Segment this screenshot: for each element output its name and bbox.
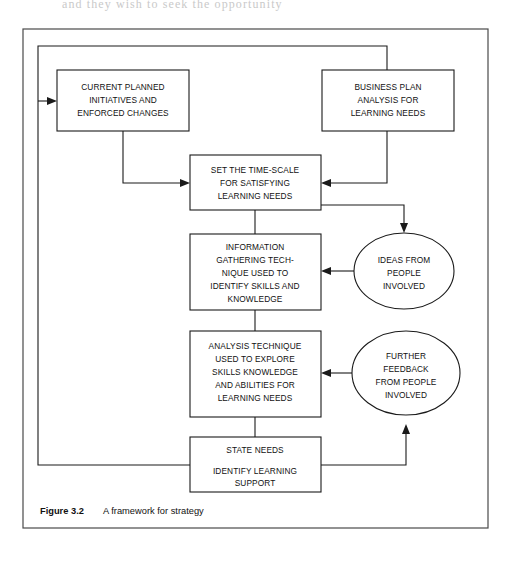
figure-caption-label: Figure 3.2 (40, 506, 84, 516)
node-current-planned-line-2: ENFORCED CHANGES (77, 108, 169, 118)
arrowhead-into-current-planned (47, 97, 57, 105)
framework-flowchart: CURRENT PLANNED INITIATIVES AND ENFORCED… (0, 0, 510, 565)
connector-business-plan-to-time-scale (321, 131, 387, 187)
node-business-plan-analysis[interactable]: BUSINESS PLAN ANALYSIS FOR LEARNING NEED… (322, 70, 454, 131)
node-further-feedback[interactable]: FURTHER FEEDBACK FROM PEOPLE INVOLVED (352, 331, 460, 415)
node-set-time-scale-line-1: FOR SATISFYING (220, 178, 290, 188)
node-analysis-technique[interactable]: ANALYSIS TECHNIQUE USED TO EXPLORE SKILL… (190, 331, 321, 417)
figure-caption-text: A framework for strategy (103, 506, 204, 516)
node-analysis-technique-line-0: ANALYSIS TECHNIQUE (209, 341, 302, 351)
node-current-planned-initiatives[interactable]: CURRENT PLANNED INITIATIVES AND ENFORCED… (57, 70, 189, 131)
connector-state-needs-to-further-feedback (321, 424, 410, 465)
node-state-needs-sub-line-1: SUPPORT (235, 478, 276, 488)
node-further-feedback-line-3: INVOLVED (385, 390, 427, 400)
node-information-gathering-line-4: KNOWLEDGE (228, 294, 283, 304)
node-business-plan-line-2: LEARNING NEEDS (351, 108, 426, 118)
node-information-gathering-line-2: NIQUE USED TO (222, 268, 289, 278)
node-current-planned-line-0: CURRENT PLANNED (81, 82, 164, 92)
node-set-time-scale-line-2: LEARNING NEEDS (218, 191, 293, 201)
arrowhead-into-time-scale-left (180, 179, 190, 187)
node-analysis-technique-line-2: SKILLS KNOWLEDGE (212, 367, 298, 377)
node-state-needs-sub-line-0: IDENTIFY LEARNING (213, 466, 297, 476)
arrowhead-into-ideas-ellipse (400, 223, 408, 233)
node-ideas-from-people[interactable]: IDEAS FROM PEOPLE INVOLVED (354, 233, 454, 309)
arrowhead-into-further-feedback-ellipse (402, 424, 410, 434)
node-set-time-scale-line-0: SET THE TIME-SCALE (211, 165, 300, 175)
arrowhead-into-time-scale-right (321, 179, 331, 187)
node-ideas-line-0: IDEAS FROM (378, 255, 431, 265)
node-further-feedback-line-2: FROM PEOPLE (375, 377, 436, 387)
arrowhead-into-analysis-technique (321, 369, 331, 377)
node-ideas-line-2: INVOLVED (383, 281, 425, 291)
node-current-planned-line-1: INITIATIVES AND (89, 95, 157, 105)
node-state-needs-line-0: STATE NEEDS (226, 445, 284, 455)
node-analysis-technique-line-1: USED TO EXPLORE (215, 354, 295, 364)
figure-page: and they wish to seek the opportunity (0, 0, 510, 565)
node-business-plan-line-1: ANALYSIS FOR (358, 95, 419, 105)
connector-current-planned-to-time-scale (123, 131, 190, 187)
node-business-plan-line-0: BUSINESS PLAN (354, 82, 421, 92)
node-state-needs[interactable]: STATE NEEDS IDENTIFY LEARNING SUPPORT (190, 437, 321, 492)
node-ideas-line-1: PEOPLE (387, 268, 421, 278)
node-set-time-scale[interactable]: SET THE TIME-SCALE FOR SATISFYING LEARNI… (190, 155, 321, 210)
node-analysis-technique-line-3: AND ABILITIES FOR (215, 380, 295, 390)
node-analysis-technique-line-4: LEARNING NEEDS (218, 393, 293, 403)
arrowhead-into-information-gathering (321, 267, 331, 275)
node-further-feedback-line-0: FURTHER (386, 351, 426, 361)
node-information-gathering[interactable]: INFORMATION GATHERING TECH- NIQUE USED T… (190, 234, 321, 310)
node-information-gathering-line-1: GATHERING TECH- (216, 255, 294, 265)
node-information-gathering-line-0: INFORMATION (226, 242, 285, 252)
node-information-gathering-line-3: IDENTIFY SKILLS AND (210, 281, 299, 291)
connector-loop-to-current-planned (38, 97, 57, 105)
connector-further-feedback-to-analysis (321, 369, 352, 377)
connector-time-scale-to-ideas (321, 205, 408, 233)
connector-ideas-to-information-gathering (321, 267, 354, 275)
node-further-feedback-line-1: FEEDBACK (383, 364, 429, 374)
